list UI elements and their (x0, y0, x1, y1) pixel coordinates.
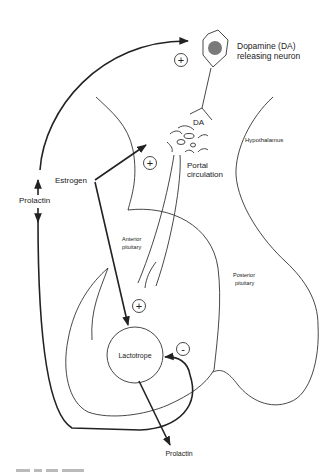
anterior-label-line1: Anterior (122, 236, 141, 242)
hypothalamus-outline (213, 97, 318, 405)
anterior-pituitary-outline (92, 268, 108, 340)
neuron-nucleus (208, 41, 222, 55)
infundibulum-outline (96, 97, 135, 210)
prolactin-to-neuron-arrow (40, 41, 188, 170)
neuron-axon (202, 68, 211, 108)
prolactin-regulation-diagram: + + + - Dopamine (DA) releasing neuron D… (0, 0, 336, 472)
prolactin-bottom-label: Prolactin (165, 450, 192, 457)
neuron-label-line1: Dopamine (DA) (237, 41, 296, 51)
capillary-plexus (167, 126, 208, 153)
svg-text:-: - (181, 343, 185, 355)
minus-sign-feedback: - (177, 343, 190, 356)
estrogen-label: Estrogen (55, 176, 87, 185)
estrogen-to-hypothalamus-arrow (95, 145, 146, 180)
svg-text:+: + (136, 300, 142, 312)
anterior-label-line2: pituitary (122, 244, 142, 250)
portal-label-line1: Portal (187, 161, 208, 170)
feedback-inhibition-arrow (165, 357, 190, 375)
portal-vessel-left (138, 155, 174, 283)
axon-terminal-left (190, 108, 202, 114)
portal-vessel-branch (145, 262, 156, 288)
svg-text:+: + (178, 54, 184, 66)
prolactin-loop-line (38, 220, 193, 430)
hypothalamus-label: Hypothalamus (245, 137, 283, 143)
posterior-label-line2: pituitary (235, 280, 255, 286)
plus-sign-top: + (175, 54, 188, 67)
estrogen-to-lactotrope-arrow (95, 182, 128, 325)
posterior-label-line1: Posterior (233, 272, 255, 278)
da-label: DA (193, 118, 205, 127)
svg-text:+: + (147, 157, 153, 169)
posterior-pituitary-outline (66, 209, 220, 416)
plus-sign-lactotrope: + (133, 300, 146, 313)
plus-sign-estrogen: + (144, 157, 157, 170)
lactotrope-label: Lactotrope (118, 352, 151, 360)
neuron-label-line2: releasing neuron (237, 51, 301, 61)
prolactin-left-label: Prolactin (19, 196, 50, 205)
portal-label-line2: circulation (187, 170, 223, 179)
